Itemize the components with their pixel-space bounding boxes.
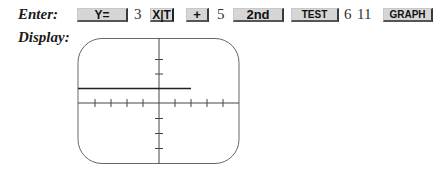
- calculator-display: [0, 0, 447, 172]
